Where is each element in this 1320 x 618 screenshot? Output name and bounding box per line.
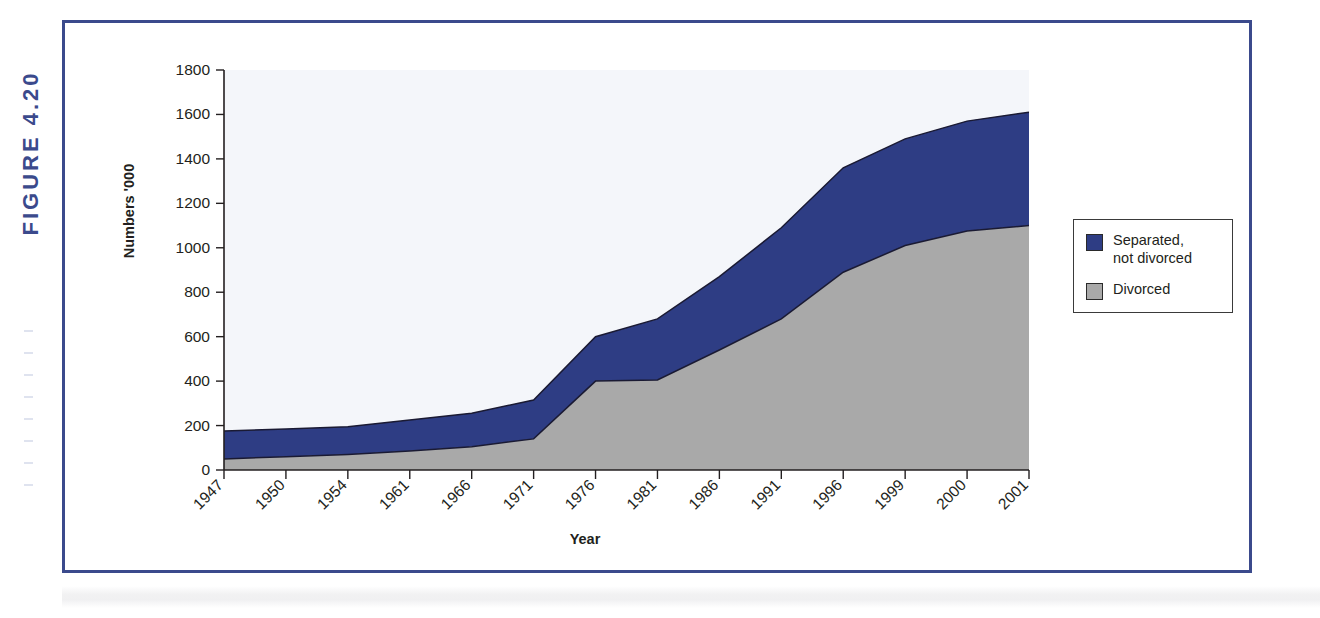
legend-label-separated: Separated, not divorced <box>1113 232 1192 267</box>
x-tick-label: 1999 <box>871 476 907 512</box>
y-tick-label: 1200 <box>176 194 211 211</box>
y-tick-label: 1600 <box>176 105 211 122</box>
y-tick-label: 0 <box>201 461 210 478</box>
y-tick-label: 1400 <box>176 150 211 167</box>
y-tick-label: 1000 <box>176 239 211 256</box>
x-tick-label: 1986 <box>685 476 721 512</box>
legend-swatch-separated-icon <box>1086 234 1103 251</box>
y-tick-label: 1800 <box>176 61 211 78</box>
x-tick-label: 1954 <box>314 476 351 513</box>
x-tick-label: 1971 <box>499 476 535 512</box>
figure-number-text: FIGURE 4.20 <box>18 70 44 235</box>
figure-page: FIGURE 4.20 0200400600800100012001400160… <box>0 0 1320 618</box>
y-tick-label: 800 <box>184 283 210 300</box>
x-tick-label: 1966 <box>437 476 473 512</box>
chart-legend: Separated, not divorced Divorced <box>1073 219 1233 313</box>
legend-item-separated: Separated, not divorced <box>1086 232 1222 267</box>
x-tick-label: 1947 <box>190 476 226 512</box>
x-tick-label: 1976 <box>561 476 597 512</box>
x-tick-label: 2001 <box>995 476 1031 512</box>
x-tick-label: 1981 <box>623 476 659 512</box>
y-axis-title: Numbers '000 <box>121 111 137 311</box>
x-tick-label: 1996 <box>809 476 845 512</box>
x-tick-label: 1961 <box>375 476 411 512</box>
x-axis-title: Year <box>165 531 1005 547</box>
y-axis-ticks: 020040060080010001200140016001800 <box>176 61 224 478</box>
y-tick-label: 600 <box>184 328 210 345</box>
figure-frame: 020040060080010001200140016001800 194719… <box>62 20 1252 573</box>
figure-number-label: FIGURE 4.20 <box>0 0 62 360</box>
x-tick-label: 2000 <box>933 476 970 513</box>
legend-item-divorced: Divorced <box>1086 281 1222 300</box>
y-tick-label: 200 <box>184 417 210 434</box>
page-edge-shadow <box>62 586 1320 608</box>
margin-rule-decoration <box>24 330 33 560</box>
y-tick-label: 400 <box>184 372 210 389</box>
legend-label-divorced: Divorced <box>1113 281 1170 299</box>
x-axis-ticks: 1947195019541961196619711976198119861991… <box>190 470 1031 513</box>
legend-swatch-divorced-icon <box>1086 283 1103 300</box>
x-tick-label: 1991 <box>747 476 783 512</box>
x-tick-label: 1950 <box>252 476 289 513</box>
chart-area: 020040060080010001200140016001800 194719… <box>65 23 1255 576</box>
